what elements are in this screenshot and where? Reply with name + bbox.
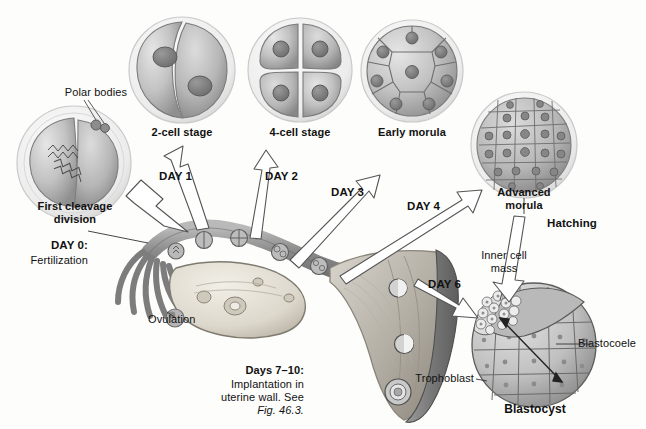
- blastocyst-label: Blastocyst: [488, 402, 582, 416]
- polar-bodies-label: Polar bodies: [44, 86, 148, 99]
- polar-body-1: [91, 120, 101, 130]
- fertilization-label: Fertilization: [0, 254, 88, 267]
- early-morula-label: Early morula: [364, 126, 460, 139]
- polar-body-2: [101, 124, 110, 133]
- implantation-heading: Days 7–10:: [150, 364, 304, 377]
- two-cell-stage-label: 2-cell stage: [134, 126, 230, 139]
- day-0-label: DAY 0:: [0, 239, 88, 253]
- arrow-to-first-cleavage: [126, 180, 188, 232]
- day-1-label: DAY 1: [159, 170, 192, 184]
- advanced-morula-label-line1: Advanced: [478, 186, 570, 199]
- trophoblast-label: Trophoblast: [396, 372, 474, 385]
- first-cleavage-label-line2: division: [16, 213, 134, 226]
- stage-early-morula: [361, 20, 463, 122]
- leader-day0: [88, 231, 148, 243]
- embryo-day3: [272, 244, 289, 261]
- implantation-line2: uterine wall. See: [150, 391, 304, 404]
- day-6-label: DAY 6: [428, 278, 461, 292]
- advanced-morula-label-line2: morula: [478, 199, 570, 212]
- embryo-day4: [311, 258, 328, 275]
- inner-cell-mass-label-line1: Inner cell: [462, 249, 546, 262]
- inner-cell-mass-label-line2: mass: [462, 262, 546, 275]
- first-cleavage-label-line1: First cleavage: [16, 200, 134, 213]
- figure-canvas: Polar bodies First cleavage division 2-c…: [0, 0, 646, 429]
- day-4-label: DAY 4: [407, 200, 440, 214]
- implantation-line3: Fig. 46.3.: [150, 404, 304, 417]
- day-3-label: DAY 3: [331, 186, 364, 200]
- stage-2-cell: [129, 17, 235, 123]
- four-cell-stage-label: 4-cell stage: [252, 126, 348, 139]
- ovulation-label: Ovulation: [148, 313, 195, 326]
- stage-4-cell: [248, 18, 352, 122]
- implantation-line1: Implantation in: [150, 378, 304, 391]
- hatching-label: Hatching: [547, 217, 597, 231]
- day-2-label: DAY 2: [265, 170, 298, 184]
- arrow-day2: [250, 150, 278, 239]
- stage-advanced-morula: [471, 92, 577, 198]
- blastocoele-label: Blastocoele: [578, 337, 636, 350]
